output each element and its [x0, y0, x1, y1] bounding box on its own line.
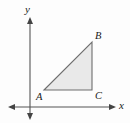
triangle-shape — [44, 42, 92, 90]
x-axis-right-arrowhead — [109, 104, 116, 110]
x-axis: x — [8, 99, 124, 111]
y-axis-label: y — [24, 3, 30, 15]
geometry-figure: x y A B C — [0, 0, 130, 123]
vertex-label-c: C — [95, 90, 103, 101]
vertex-label-b: B — [95, 30, 102, 41]
y-axis-up-arrowhead — [27, 17, 33, 24]
y-axis-down-arrowhead — [27, 113, 33, 120]
vertex-label-a: A — [35, 91, 43, 102]
x-axis-left-arrowhead — [8, 104, 15, 110]
triangle-abc: A B C — [35, 30, 103, 102]
coordinate-plane-svg: x y A B C — [0, 0, 130, 123]
y-axis: y — [24, 3, 33, 120]
x-axis-label: x — [118, 99, 124, 111]
